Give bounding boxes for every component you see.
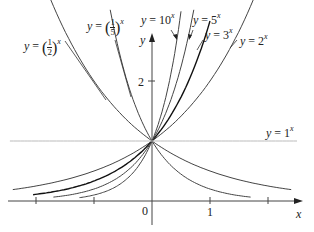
curve-series-2 bbox=[53, 10, 193, 197]
arrow-10x-icon bbox=[173, 34, 177, 40]
y-axis-arrow-icon bbox=[149, 33, 155, 42]
x-axis-arrow-icon bbox=[294, 198, 303, 204]
tick-label-origin: 0 bbox=[142, 205, 148, 217]
label-3x: y = 3x bbox=[205, 27, 233, 41]
label-half-x: y = (12)x bbox=[24, 38, 61, 57]
label-fifth-x: y = (15)x bbox=[87, 18, 124, 37]
label-2x: y = 2x bbox=[240, 33, 268, 47]
tick-label-two: 2 bbox=[138, 76, 144, 88]
curves bbox=[10, 0, 297, 198]
tick-label-one: 1 bbox=[207, 206, 213, 218]
label-10x: y = 10x bbox=[141, 12, 175, 26]
arrow-5x-icon bbox=[188, 34, 192, 40]
label-5x: y = 5x bbox=[193, 12, 221, 26]
curve-series-3 bbox=[80, 11, 182, 197]
label-y-axis: y bbox=[140, 34, 145, 46]
label-1x: y = 1x bbox=[266, 125, 294, 139]
label-x-axis: x bbox=[296, 208, 301, 220]
